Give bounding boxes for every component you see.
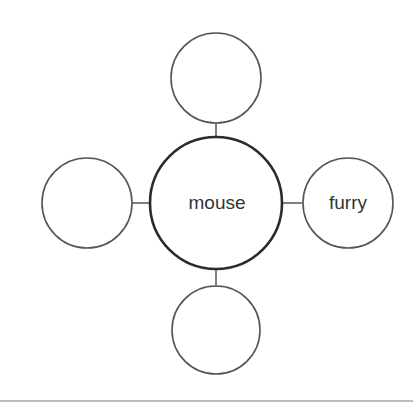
satellite-node-right: furry <box>303 158 393 248</box>
center-node: mouse <box>150 137 282 269</box>
bottom-divider <box>0 400 413 402</box>
satellite-node-bottom <box>172 286 260 374</box>
satellite-label-right: furry <box>329 192 368 213</box>
satellite-node-left <box>42 158 132 248</box>
concept-web-diagram: furry mouse <box>0 0 413 403</box>
center-label: mouse <box>188 192 245 213</box>
satellite-node-top <box>171 33 261 123</box>
